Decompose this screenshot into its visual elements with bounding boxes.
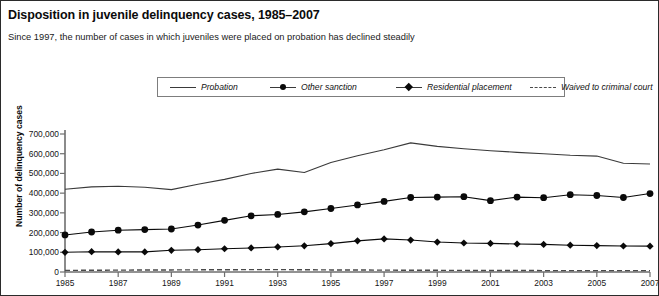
plot-area [1, 1, 659, 296]
series-marker-other-sanction [620, 194, 627, 201]
series-marker-residential-placement [354, 237, 361, 244]
series-marker-residential-placement [540, 241, 547, 248]
series-marker-other-sanction [328, 205, 335, 212]
series-marker-other-sanction [141, 226, 148, 233]
series-marker-other-sanction [115, 227, 122, 234]
series-marker-residential-placement [88, 248, 95, 255]
series-marker-residential-placement [593, 242, 600, 249]
series-marker-other-sanction [434, 194, 441, 201]
series-marker-other-sanction [593, 192, 600, 199]
series-marker-residential-placement [434, 238, 441, 245]
series-marker-other-sanction [460, 193, 467, 200]
series-marker-other-sanction [407, 194, 414, 201]
series-marker-residential-placement [460, 239, 467, 246]
series-marker-residential-placement [115, 248, 122, 255]
series-marker-other-sanction [221, 217, 228, 224]
series-marker-other-sanction [62, 232, 69, 239]
series-marker-residential-placement [380, 235, 387, 242]
series-marker-other-sanction [195, 222, 202, 229]
series-marker-other-sanction [567, 191, 574, 198]
series-marker-residential-placement [513, 240, 520, 247]
series-line-waived-to-criminal-court [65, 270, 650, 271]
series-marker-other-sanction [168, 226, 175, 233]
series-marker-other-sanction [381, 198, 388, 205]
series-marker-other-sanction [487, 197, 494, 204]
series-marker-other-sanction [274, 211, 281, 218]
series-marker-residential-placement [620, 242, 627, 249]
series-marker-other-sanction [301, 208, 308, 215]
series-marker-residential-placement [248, 244, 255, 251]
series-marker-other-sanction [540, 194, 547, 201]
series-marker-residential-placement [407, 236, 414, 243]
series-marker-residential-placement [646, 243, 653, 250]
series-marker-residential-placement [168, 247, 175, 254]
series-marker-residential-placement [567, 242, 574, 249]
chart-figure: Disposition in juvenile delinquency case… [0, 0, 659, 296]
series-marker-other-sanction [248, 212, 255, 219]
series-marker-residential-placement [61, 249, 68, 256]
series-marker-residential-placement [274, 243, 281, 250]
series-marker-residential-placement [301, 242, 308, 249]
series-marker-other-sanction [514, 194, 521, 201]
series-marker-residential-placement [141, 248, 148, 255]
series-marker-other-sanction [354, 202, 361, 209]
series-marker-residential-placement [194, 246, 201, 253]
series-marker-residential-placement [221, 245, 228, 252]
series-marker-residential-placement [327, 240, 334, 247]
series-line-other-sanction [65, 194, 650, 235]
series-marker-residential-placement [487, 240, 494, 247]
series-line-probation [65, 143, 650, 190]
series-marker-other-sanction [647, 190, 654, 197]
series-marker-other-sanction [88, 229, 95, 236]
